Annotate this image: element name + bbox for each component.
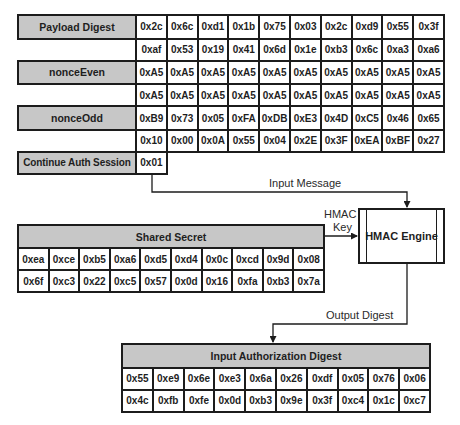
cell: 0x6e xyxy=(184,368,215,390)
shared-secret-table: Shared Secret 0xea 0xce 0xb5 0xa6 0xd5 0… xyxy=(17,224,325,293)
cell: 0x00 xyxy=(167,130,198,152)
cell: 0x3f xyxy=(413,15,444,39)
cell: 0xd4 xyxy=(171,248,202,270)
cell: 0xc3 xyxy=(49,270,80,292)
hmac-key-label-line2: Key xyxy=(333,221,352,233)
cell: 0x2c xyxy=(321,15,352,39)
cell: 0x53 xyxy=(167,39,198,61)
table-row: 0x4c 0xfb 0xfe 0x0d 0xb3 0x9e 0x3f 0xc4 … xyxy=(122,390,430,412)
cell: 0xA5 xyxy=(413,84,444,106)
cell: 0xA5 xyxy=(259,84,290,106)
cell: 0x6a xyxy=(245,368,276,390)
cell: 0x1e xyxy=(290,39,321,61)
cell: 0x76 xyxy=(368,368,399,390)
hmac-engine-box: HMAC Engine xyxy=(358,208,445,264)
cell: 0xA5 xyxy=(228,84,259,106)
hmac-engine-label: HMAC Engine xyxy=(365,230,438,242)
empty-cell xyxy=(382,152,413,174)
cell: 0xb5 xyxy=(79,248,110,270)
cell: 0x22 xyxy=(79,270,110,292)
cell: 0xA5 xyxy=(321,61,352,85)
input-message-label: Input Message xyxy=(269,177,341,189)
cell: 0x26 xyxy=(276,368,307,390)
table-row: 0xea 0xce 0xb5 0xa6 0xd5 0xd4 0x0c 0xcd … xyxy=(18,248,324,270)
hmac-key-label-line1: HMAC xyxy=(324,208,356,220)
table-row: 0x10 0x00 0x0A 0x55 0x04 0x2E 0x3F 0xEA … xyxy=(18,130,444,152)
input-authorization-digest-table: Input Authorization Digest 0x55 0xe9 0x6… xyxy=(121,343,431,413)
cell: 0x6d xyxy=(259,39,290,61)
cell: 0xdf xyxy=(307,368,338,390)
cell: 0xa6 xyxy=(110,248,141,270)
empty-cell xyxy=(228,152,259,174)
cell: 0xDB xyxy=(259,106,290,130)
cell: 0xaf xyxy=(136,39,167,61)
cell: 0x16 xyxy=(202,270,233,292)
cell: 0x04 xyxy=(259,130,290,152)
cell: 0xA5 xyxy=(352,84,383,106)
cell: 0xd5 xyxy=(140,248,171,270)
cell: 0xA5 xyxy=(136,61,167,85)
cell: 0x3F xyxy=(321,130,352,152)
table-row: 0x6f 0xc3 0x22 0xc5 0x57 0x0d 0x16 0xfa … xyxy=(18,270,324,292)
cell: 0x01 xyxy=(136,152,167,174)
cell: 0xb3 xyxy=(263,270,294,292)
nonce-even-label: nonceEven xyxy=(18,61,136,85)
cell: 0xfb xyxy=(153,390,184,412)
cell: 0x08 xyxy=(293,248,324,270)
cell: 0xA5 xyxy=(136,84,167,106)
cell: 0xA5 xyxy=(167,61,198,85)
cell: 0xA5 xyxy=(321,84,352,106)
cell: 0xA5 xyxy=(413,61,444,85)
table-header-row: Input Authorization Digest xyxy=(122,344,430,368)
cell: 0x1c xyxy=(368,390,399,412)
cell: 0x05 xyxy=(198,106,229,130)
cell: 0x05 xyxy=(338,368,369,390)
cell: 0xA5 xyxy=(228,61,259,85)
cell: 0x2E xyxy=(290,130,321,152)
output-digest-label: Output Digest xyxy=(326,309,393,321)
cell: 0xFA xyxy=(228,106,259,130)
cell: 0x4D xyxy=(321,106,352,130)
cell: 0x73 xyxy=(167,106,198,130)
cell: 0x27 xyxy=(413,130,444,152)
input-message-table: Payload Digest 0x2c 0x6c 0xd1 0x1b 0x75 … xyxy=(17,14,445,175)
cell: 0x0d xyxy=(214,390,245,412)
cell: 0x06 xyxy=(399,368,430,390)
cell: 0x10 xyxy=(136,130,167,152)
table-row: 0xaf 0x53 0x19 0x41 0x6d 0x1e 0xb3 0x6c … xyxy=(18,39,444,61)
cell: 0xA5 xyxy=(290,84,321,106)
cell: 0xb3 xyxy=(321,39,352,61)
cell: 0xa6 xyxy=(413,39,444,61)
cell: 0xA5 xyxy=(167,84,198,106)
cell: 0x6c xyxy=(352,39,383,61)
process-bar-left xyxy=(366,210,367,262)
cell: 0xfa xyxy=(232,270,263,292)
cell: 0xb3 xyxy=(245,390,276,412)
table-header-row: Shared Secret xyxy=(18,225,324,248)
cell: 0x6c xyxy=(167,15,198,39)
cell: 0x6f xyxy=(18,270,49,292)
cell: 0xA5 xyxy=(382,84,413,106)
cell: 0xe3 xyxy=(214,368,245,390)
cell: 0x41 xyxy=(228,39,259,61)
continue-auth-session-label: Continue Auth Session xyxy=(18,152,136,174)
cell: 0x75 xyxy=(259,15,290,39)
cell: 0xC5 xyxy=(352,106,383,130)
table-row: 0xA5 0xA5 0xA5 0xA5 0xA5 0xA5 0xA5 0xA5 … xyxy=(18,84,444,106)
nonce-odd-label: nonceOdd xyxy=(18,106,136,130)
cell: 0xA5 xyxy=(352,61,383,85)
blank-label xyxy=(18,84,136,106)
cell: 0xB9 xyxy=(136,106,167,130)
payload-digest-label: Payload Digest xyxy=(18,15,136,39)
cell: 0x7a xyxy=(293,270,324,292)
cell: 0x57 xyxy=(140,270,171,292)
cell: 0x9d xyxy=(263,248,294,270)
empty-cell xyxy=(198,152,229,174)
table-row: Continue Auth Session 0x01 xyxy=(18,152,444,174)
cell: 0xd1 xyxy=(198,15,229,39)
table-row: Payload Digest 0x2c 0x6c 0xd1 0x1b 0x75 … xyxy=(18,15,444,39)
cell: 0xBF xyxy=(382,130,413,152)
auth-digest-title: Input Authorization Digest xyxy=(122,344,430,368)
process-bar-right xyxy=(436,210,437,262)
cell: 0xA5 xyxy=(259,61,290,85)
